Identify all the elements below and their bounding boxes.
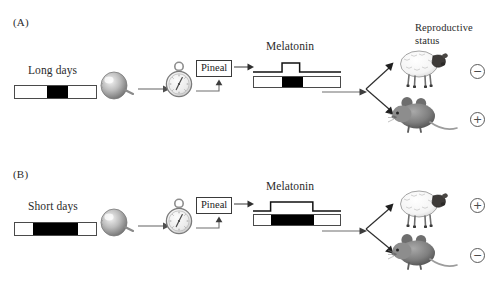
mouse-icon xyxy=(390,229,458,275)
photoperiod-day-segment-leading xyxy=(15,86,47,98)
photoperiod-bar-a xyxy=(14,85,97,99)
melatonin-day-segment-trailing xyxy=(314,215,340,225)
photoperiod-day-segment-leading xyxy=(15,223,33,235)
panel-label-a: (A) xyxy=(13,16,29,28)
status-symbol-sheep-a: − xyxy=(470,64,485,79)
photoperiod-day-segment-trailing xyxy=(68,86,96,98)
melatonin-photoperiod-bar-b xyxy=(253,214,341,226)
arrow-clock-to-pineal-b xyxy=(196,217,228,231)
status-symbol-mouse-a: + xyxy=(470,112,485,127)
photoperiod-melatonin-figure: (A) Reproductive status Long days xyxy=(0,0,500,283)
arrow-melatonin-to-animals-b xyxy=(322,226,368,236)
pineal-box-a: Pineal xyxy=(196,60,232,77)
photoperiod-night-segment xyxy=(47,86,68,98)
mouse-icon xyxy=(390,92,458,138)
arrow-melatonin-to-animals-a xyxy=(322,87,368,97)
pineal-box-b: Pineal xyxy=(196,197,232,214)
sheep-icon xyxy=(395,185,451,231)
eyeball-icon xyxy=(99,207,135,239)
reproductive-status-line1: Reproductive xyxy=(415,22,495,35)
pocket-watch-icon xyxy=(162,196,196,236)
reproductive-status-heading: Reproductive status xyxy=(415,22,495,47)
panel-label-b: (B) xyxy=(13,168,28,180)
arrow-clock-to-pineal-a xyxy=(196,80,228,94)
melatonin-waveform-a xyxy=(253,60,341,74)
photoperiod-label-b: Short days xyxy=(28,200,78,212)
photoperiod-night-segment xyxy=(33,223,78,235)
melatonin-day-segment-trailing xyxy=(303,77,340,87)
melatonin-day-segment-leading xyxy=(254,77,282,87)
melatonin-label-b: Melatonin xyxy=(266,180,314,192)
status-symbol-sheep-b: + xyxy=(470,198,485,213)
pocket-watch-icon xyxy=(162,59,196,99)
arrow-pineal-to-melatonin-b xyxy=(234,199,255,209)
melatonin-night-segment xyxy=(282,77,303,87)
melatonin-waveform-b xyxy=(253,199,341,213)
photoperiod-label-a: Long days xyxy=(28,64,77,76)
melatonin-night-segment xyxy=(271,215,314,225)
arrow-pineal-to-melatonin-a xyxy=(234,62,255,72)
photoperiod-bar-b xyxy=(14,222,97,236)
eyeball-icon xyxy=(99,70,135,102)
melatonin-label-a: Melatonin xyxy=(266,40,314,52)
melatonin-day-segment-leading xyxy=(254,215,271,225)
status-symbol-mouse-b: − xyxy=(470,248,485,263)
photoperiod-day-segment-trailing xyxy=(78,223,96,235)
sheep-icon xyxy=(395,45,451,91)
